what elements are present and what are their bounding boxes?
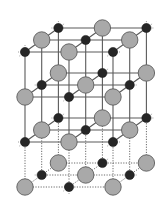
large-ion-atom bbox=[138, 65, 154, 81]
large-ion-atom bbox=[105, 179, 121, 195]
small-ion-atom bbox=[37, 170, 46, 179]
large-ion-atom bbox=[94, 110, 110, 126]
large-ion-atom bbox=[17, 89, 33, 105]
small-ion-atom bbox=[98, 158, 107, 167]
large-ion-atom bbox=[78, 167, 94, 183]
large-ion-atom bbox=[122, 32, 138, 48]
large-ion-atom bbox=[94, 20, 110, 36]
large-ion-atom bbox=[122, 122, 138, 138]
small-ion-atom bbox=[37, 80, 46, 89]
small-ion-atom bbox=[142, 113, 151, 122]
large-ion-atom bbox=[34, 32, 50, 48]
small-ion-atom bbox=[125, 170, 134, 179]
large-ion-atom bbox=[61, 134, 77, 150]
large-ion-atom bbox=[105, 89, 121, 105]
large-ion-atom bbox=[50, 155, 66, 171]
large-ion-atom bbox=[17, 179, 33, 195]
small-ion-atom bbox=[54, 23, 63, 32]
lattice-bonds bbox=[25, 28, 146, 187]
small-ion-atom bbox=[20, 137, 29, 146]
small-ion-atom bbox=[20, 47, 29, 56]
large-ion-atom bbox=[138, 155, 154, 171]
small-ion-atom bbox=[142, 23, 151, 32]
large-ion-atom bbox=[34, 122, 50, 138]
crystal-lattice-diagram bbox=[0, 0, 168, 212]
small-ion-atom bbox=[108, 47, 117, 56]
small-ion-atom bbox=[108, 137, 117, 146]
small-ion-atom bbox=[54, 113, 63, 122]
small-ion-atom bbox=[81, 35, 90, 44]
small-ion-atom bbox=[98, 68, 107, 77]
large-ion-atom bbox=[61, 44, 77, 60]
small-ion-atom bbox=[81, 125, 90, 134]
large-ion-atom bbox=[50, 65, 66, 81]
small-ion-atom bbox=[64, 182, 73, 191]
small-ion-atom bbox=[125, 80, 134, 89]
large-ion-atom bbox=[78, 77, 94, 93]
small-ion-atom bbox=[64, 92, 73, 101]
